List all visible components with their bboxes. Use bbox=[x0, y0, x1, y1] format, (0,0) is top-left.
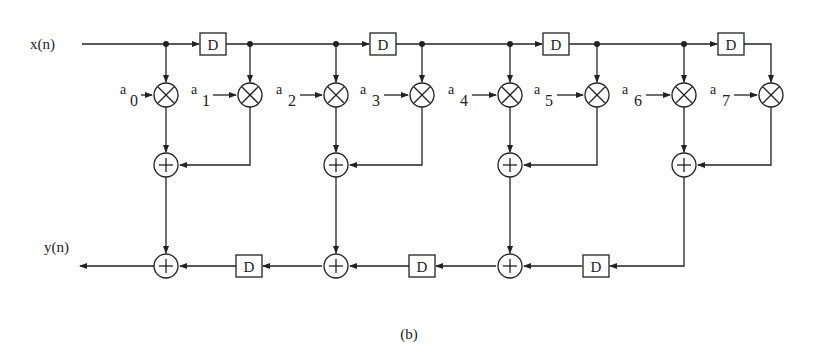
svg-text:a: a bbox=[191, 82, 198, 97]
svg-text:0: 0 bbox=[130, 92, 138, 109]
svg-text:5: 5 bbox=[545, 92, 553, 109]
svg-text:a: a bbox=[448, 82, 455, 97]
svg-text:a: a bbox=[120, 82, 127, 97]
output-adder-1 bbox=[154, 254, 178, 278]
fir-filter-diagram: x(n) D D D D bbox=[0, 0, 815, 361]
svg-text:D: D bbox=[208, 37, 219, 53]
pair-adder-3 bbox=[498, 153, 522, 177]
input-label: x(n) bbox=[30, 36, 55, 53]
top-delay-4: D bbox=[718, 33, 744, 55]
multiplier-7: a 7 bbox=[710, 82, 783, 109]
top-delay-2: D bbox=[370, 33, 396, 55]
output-chain-wiring bbox=[80, 177, 684, 266]
svg-text:4: 4 bbox=[460, 92, 468, 109]
svg-text:a: a bbox=[276, 82, 283, 97]
svg-text:a: a bbox=[710, 82, 717, 97]
svg-text:a: a bbox=[534, 82, 541, 97]
svg-text:D: D bbox=[378, 37, 389, 53]
multiplier-1: a 1 bbox=[191, 82, 262, 109]
pair-adder-1 bbox=[154, 153, 178, 177]
svg-text:a: a bbox=[622, 82, 629, 97]
svg-text:D: D bbox=[244, 259, 255, 275]
output-adder-2 bbox=[324, 254, 348, 278]
svg-text:a: a bbox=[360, 82, 367, 97]
pair-adder-2 bbox=[324, 153, 348, 177]
input-line bbox=[82, 44, 771, 82]
tap-lines bbox=[166, 44, 684, 82]
multiplier-0: a 0 bbox=[120, 82, 178, 109]
multiplier-3: a 3 bbox=[360, 82, 434, 109]
output-adder-3 bbox=[498, 254, 522, 278]
svg-text:D: D bbox=[726, 37, 737, 53]
multiplier-5: a 5 bbox=[534, 82, 609, 109]
bottom-delay-2: D bbox=[409, 255, 435, 277]
svg-text:1: 1 bbox=[202, 92, 210, 109]
svg-text:D: D bbox=[417, 259, 428, 275]
multiplier-4: a 4 bbox=[448, 82, 522, 109]
pair-adder-4 bbox=[672, 153, 696, 177]
svg-text:6: 6 bbox=[634, 92, 642, 109]
top-delay-3: D bbox=[543, 33, 569, 55]
svg-text:7: 7 bbox=[722, 92, 730, 109]
multiplier-6: a 6 bbox=[622, 82, 696, 109]
svg-text:D: D bbox=[591, 259, 602, 275]
svg-text:D: D bbox=[551, 37, 562, 53]
multiplier-2: a 2 bbox=[276, 82, 348, 109]
figure-caption: (b) bbox=[400, 326, 418, 343]
bottom-delay-3: D bbox=[583, 255, 609, 277]
svg-text:2: 2 bbox=[288, 92, 296, 109]
output-label: y(n) bbox=[44, 239, 69, 256]
bottom-delay-1: D bbox=[236, 255, 262, 277]
svg-text:3: 3 bbox=[372, 92, 380, 109]
top-delay-1: D bbox=[200, 33, 226, 55]
